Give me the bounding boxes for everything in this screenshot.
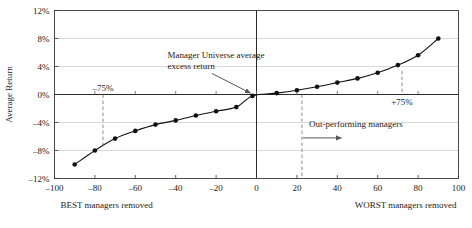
x-axis-tick-label: –40	[168, 183, 183, 193]
annotation-text: excess return	[168, 61, 216, 71]
x-axis-tick-label: –100	[45, 183, 65, 193]
data-point	[355, 76, 360, 81]
x-axis-title-left: BEST managers removed	[61, 200, 154, 210]
x-axis-tick-label: 0	[254, 183, 259, 193]
data-point	[375, 71, 380, 76]
x-axis-tick-label: –60	[128, 183, 143, 193]
annotation-text: Manager Universe average	[168, 50, 265, 60]
y-axis-tick-label: –8%	[32, 146, 50, 156]
x-axis-title-right: WORST managers removed	[355, 200, 457, 210]
x-axis-tick-label: –80	[87, 183, 102, 193]
x-axis-tick-label: 20	[292, 183, 302, 193]
x-axis-tick-label: 80	[414, 183, 424, 193]
data-point	[315, 85, 320, 90]
data-point	[113, 136, 118, 141]
data-point	[396, 63, 401, 68]
average-return-vs-managers-removed-chart: –75%+75% Manager Universe averageexcess …	[0, 0, 472, 228]
y-axis-tick-label: –12%	[28, 174, 51, 184]
y-axis-tick-label: 0%	[38, 90, 51, 100]
data-point	[436, 36, 441, 41]
x-axis-tick-label: 100	[452, 183, 466, 193]
data-point	[416, 53, 421, 58]
reference-line-label-plus-75: +75%	[391, 97, 413, 107]
y-axis-tick-label: –4%	[32, 118, 50, 128]
chart-container: –75%+75% Manager Universe averageexcess …	[0, 0, 472, 228]
y-axis-tick-label: 8%	[38, 34, 51, 44]
data-point	[234, 105, 239, 110]
y-axis-tick-label: 4%	[38, 62, 51, 72]
data-point	[93, 148, 98, 153]
data-point	[153, 122, 158, 127]
y-axis-tick-label: 12%	[33, 6, 50, 16]
x-axis-tick-label: 60	[373, 183, 383, 193]
data-point	[274, 91, 279, 96]
data-point	[173, 118, 178, 123]
data-point	[214, 109, 219, 114]
annotation-text: Out-performing managers	[309, 119, 403, 129]
data-point	[133, 129, 138, 134]
data-point	[295, 88, 300, 93]
data-point	[335, 80, 340, 85]
data-point	[72, 162, 77, 167]
data-point	[250, 94, 255, 99]
x-axis-tick-label: 40	[333, 183, 343, 193]
x-axis-tick-label: –20	[208, 183, 223, 193]
data-point	[194, 113, 199, 118]
y-axis-title: Average Return	[4, 66, 14, 123]
